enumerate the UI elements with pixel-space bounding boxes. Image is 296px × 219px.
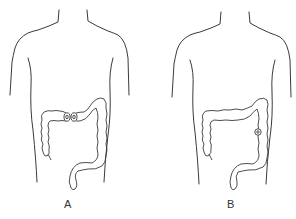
stoma-proximal-a-inner bbox=[66, 115, 68, 119]
diagram-canvas bbox=[0, 0, 296, 219]
torso-outline-b-right bbox=[249, 12, 291, 97]
torso-side-right-a bbox=[104, 58, 113, 182]
figure-b bbox=[172, 12, 291, 190]
colon-transverse-descending-a bbox=[69, 98, 107, 190]
torso-outline-a-right bbox=[87, 10, 129, 95]
stoma-b-inner bbox=[257, 131, 259, 133]
stoma-distal-a-inner bbox=[73, 115, 75, 119]
torso-side-left-a bbox=[28, 58, 37, 182]
appendix-a bbox=[48, 154, 51, 160]
torso-outline-b bbox=[172, 12, 221, 97]
torso-side-left-b bbox=[190, 60, 199, 184]
figure-label-b: B bbox=[227, 198, 234, 210]
appendix-b bbox=[209, 154, 212, 160]
torso-outline-a bbox=[10, 10, 59, 95]
colon-b bbox=[202, 98, 268, 190]
figure-a bbox=[10, 10, 129, 190]
colon-ascending-transverse-a bbox=[41, 111, 66, 157]
figure-label-a: A bbox=[64, 198, 71, 210]
